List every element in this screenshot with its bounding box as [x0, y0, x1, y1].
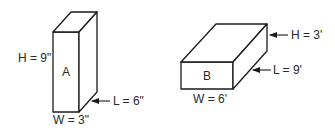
diagram-two-boxes: A H = 9" L = 6" W = 3" B H = 3' L = 9' W… [0, 0, 335, 139]
box-a-length-label: L = 6" [113, 95, 144, 107]
box-b-label: B [203, 70, 211, 82]
box-b-width-label: W = 6' [193, 93, 227, 105]
box-a-shape [53, 12, 97, 112]
box-b-shape [181, 24, 267, 89]
box-b-height-label: H = 3' [291, 29, 322, 41]
box-a-width-label: W = 3" [53, 114, 89, 126]
box-a-height-label: H = 9" [18, 52, 51, 64]
box-a-label: A [62, 66, 70, 78]
box-b-length-label: L = 9' [273, 64, 302, 76]
